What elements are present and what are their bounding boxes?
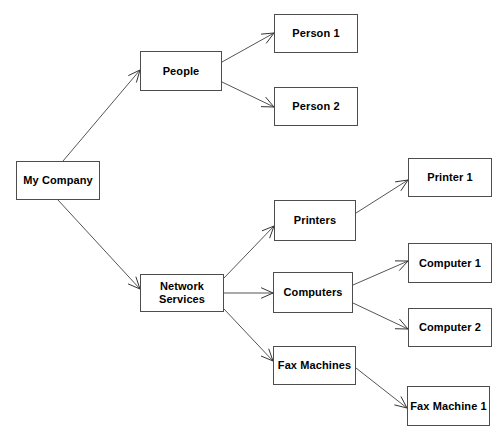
edge-line [222,33,274,62]
edge-line [222,82,274,107]
diagram-canvas: My CompanyPeoplePerson 1Person 2Network … [0,0,504,440]
node-label: Person 2 [292,100,339,113]
node-fax-machines[interactable]: Fax Machines [273,346,356,385]
arrowhead-icon [261,288,273,293]
edge-network-computers [224,288,273,299]
node-label: Computer 1 [419,257,481,270]
node-my-company[interactable]: My Company [16,161,100,200]
node-printer-1[interactable]: Printer 1 [408,158,492,197]
node-label: People [163,65,200,78]
node-label: Printers [294,214,336,227]
node-computers[interactable]: Computers [273,272,353,313]
node-people[interactable]: People [140,51,222,91]
node-label: Person 1 [292,27,339,40]
edge-line [356,368,407,408]
node-label: Network Services [159,280,205,306]
edge-layer [0,0,504,440]
edge-line [58,200,140,289]
node-label: Computers [284,286,343,299]
node-person-2[interactable]: Person 2 [274,87,358,126]
edge-printers-printer-1 [356,180,408,213]
node-person-1[interactable]: Person 1 [274,14,358,53]
edge-line [224,309,273,361]
edge-line [63,70,140,161]
node-label: Fax Machines [278,359,351,372]
edge-fax-machines-fax-machine-1 [356,368,407,408]
arrowhead-icon [401,180,408,191]
edge-line [224,226,274,278]
edge-people-person-2 [222,82,274,107]
node-label: Computer 2 [419,321,481,334]
edge-company-people [63,70,140,161]
node-computer-2[interactable]: Computer 2 [408,308,492,347]
node-label: Fax Machine 1 [410,400,487,413]
edge-line [356,180,408,213]
edge-network-fax-machines [224,309,273,361]
edge-line [353,303,408,329]
node-label: My Company [23,174,92,187]
node-network-services[interactable]: Network Services [140,274,224,312]
node-printers[interactable]: Printers [274,200,356,241]
edge-people-person-1 [222,33,274,62]
arrowhead-icon [266,33,274,43]
node-fax-machine-1[interactable]: Fax Machine 1 [407,386,490,426]
node-computer-1[interactable]: Computer 1 [408,243,492,283]
edge-network-printers [224,226,274,278]
node-label: Printer 1 [427,171,473,184]
edge-company-network-services [58,200,140,289]
arrowhead-icon [261,293,273,298]
edge-computers-computer-2 [353,303,408,329]
edge-line [353,261,408,285]
edge-computers-computer-1 [353,261,408,285]
